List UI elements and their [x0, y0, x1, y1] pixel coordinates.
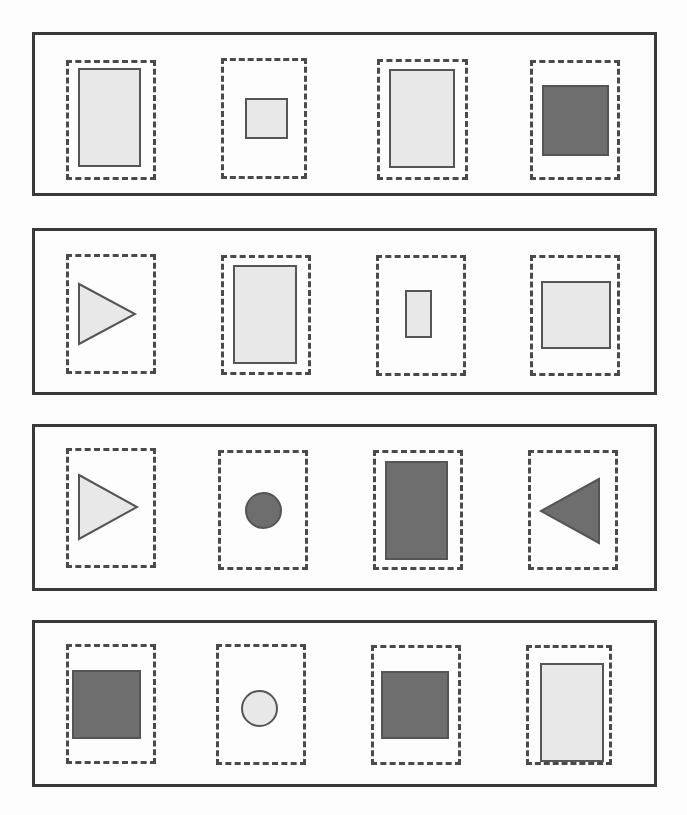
- cell-r4c1-rect-dark[interactable]: [72, 670, 141, 739]
- cell-r2c3-rect-light[interactable]: [405, 290, 432, 338]
- cell-r2c1-triangle-glyph-icon: [78, 283, 136, 345]
- cell-r4c2-circle-light[interactable]: [241, 690, 278, 727]
- cell-r3c4-triangle-left-dark[interactable]: [540, 478, 600, 544]
- cell-r1c2-rect-light[interactable]: [245, 98, 288, 139]
- cell-r1c1-rect-light[interactable]: [78, 68, 141, 167]
- cell-r3c1-triangle-right-light[interactable]: [78, 474, 138, 540]
- cell-r2c4-rect-light[interactable]: [541, 281, 611, 349]
- cell-r2c1-triangle-right-light[interactable]: [78, 283, 136, 345]
- cell-r4c3-rect-dark[interactable]: [381, 671, 449, 739]
- cell-r3c3-rect-dark[interactable]: [385, 461, 448, 560]
- puzzle-canvas: [0, 0, 687, 815]
- cell-r1c4-rect-dark[interactable]: [542, 85, 609, 156]
- cell-r1c3-rect-light[interactable]: [389, 69, 455, 168]
- cell-r3c2-circle-dark[interactable]: [245, 492, 282, 529]
- cell-r3c1-triangle-glyph-icon: [78, 474, 138, 540]
- cell-r3c4-triangle-glyph-icon: [540, 478, 600, 544]
- cell-r4c4-rect-light[interactable]: [540, 663, 604, 762]
- cell-r2c2-rect-light[interactable]: [233, 265, 297, 364]
